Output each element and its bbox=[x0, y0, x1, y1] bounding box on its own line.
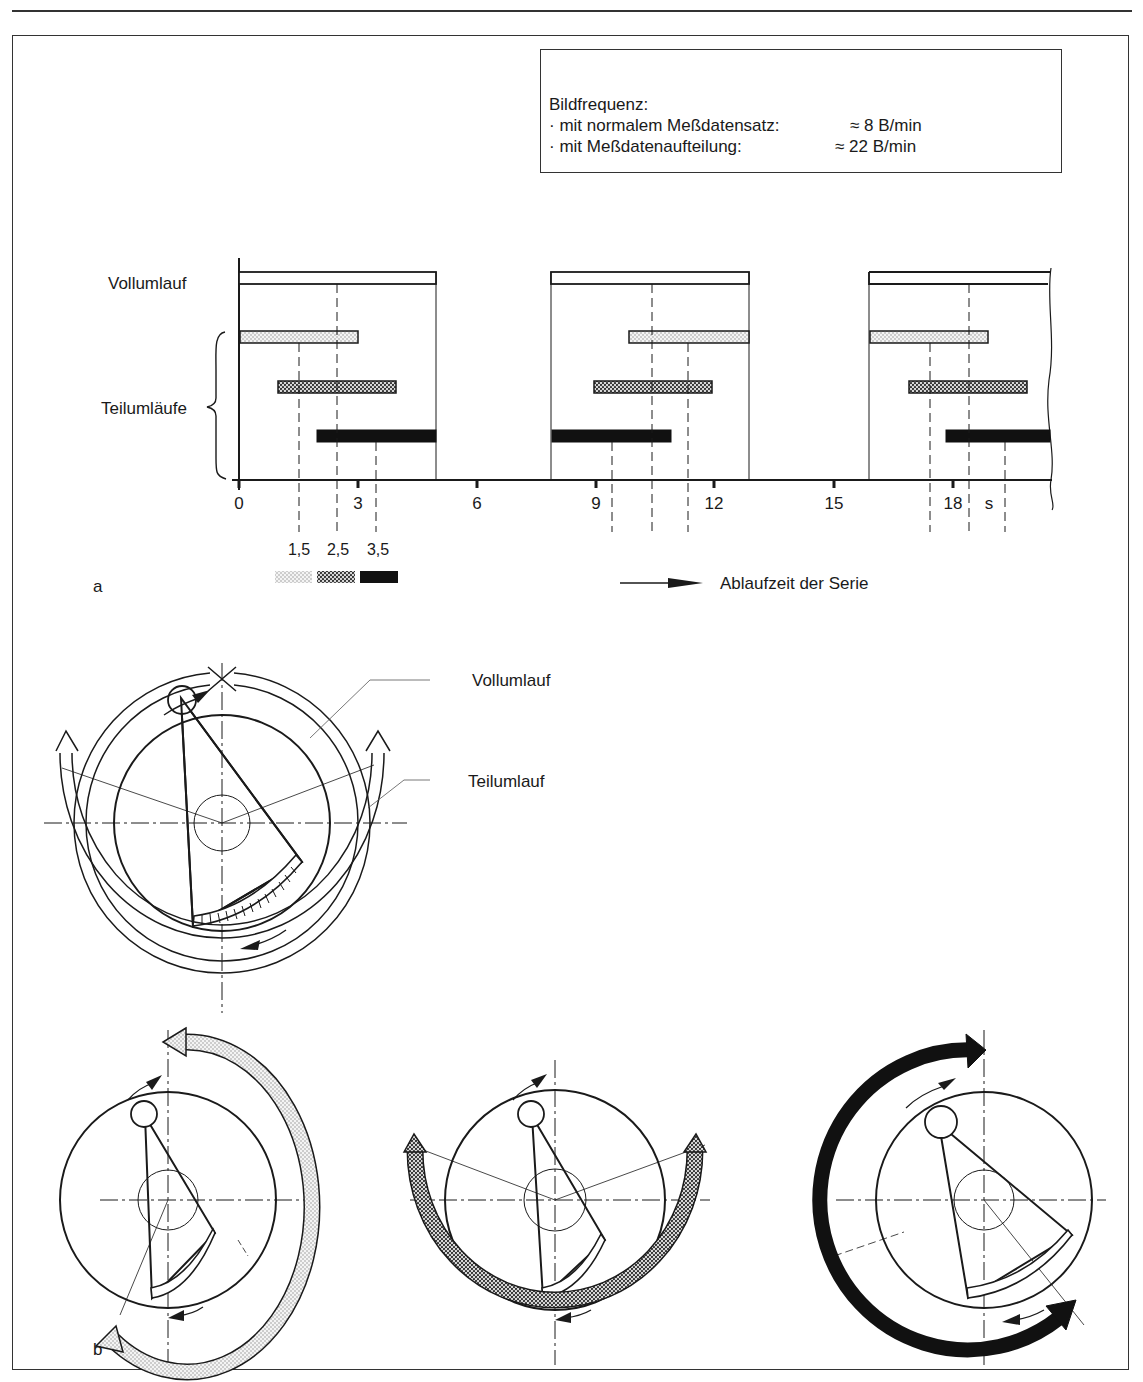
timing-chart bbox=[207, 258, 1053, 532]
x-tick-labels: 0 3 6 9 12 15 18 s bbox=[234, 494, 993, 513]
partial-arc-light bbox=[113, 1042, 312, 1372]
partial-arrowhead-right-icon bbox=[366, 731, 390, 751]
legend-light-dots bbox=[275, 571, 312, 583]
full-rotation-bars bbox=[239, 272, 1050, 284]
tick-label-12: 12 bbox=[705, 494, 724, 513]
partial-arrowhead-left-icon bbox=[56, 731, 78, 751]
partial-diagram-1 bbox=[60, 1028, 316, 1372]
tick-label-3: 3 bbox=[353, 494, 362, 513]
time-arrow-label: Ablaufzeit der Serie bbox=[720, 574, 868, 593]
dashed-markers bbox=[299, 284, 1005, 532]
offset-label-1-5: 1,5 bbox=[288, 541, 310, 558]
rotation-arrow-bottom-icon bbox=[240, 940, 260, 950]
x-ticks bbox=[239, 480, 953, 488]
x-unit-label: s bbox=[985, 494, 994, 513]
break-line bbox=[1048, 268, 1053, 510]
tick-label-9: 9 bbox=[591, 494, 600, 513]
offset-label-3-5: 3,5 bbox=[367, 541, 389, 558]
arc-arrowhead-left-icon bbox=[404, 1134, 426, 1152]
tick-label-18: 18 bbox=[944, 494, 963, 513]
panel-label-a: a bbox=[93, 577, 103, 596]
partial-3-bars bbox=[317, 430, 1050, 442]
arc-arrowhead-top-icon bbox=[966, 1034, 986, 1068]
row-label-full: Vollumlauf bbox=[108, 274, 187, 293]
offset-label-2-5: 2,5 bbox=[327, 541, 349, 558]
partial-group-brace bbox=[207, 332, 226, 479]
panel-label-b: b bbox=[93, 1340, 102, 1359]
full-rotation-arrow-right bbox=[234, 673, 370, 823]
arc-arrowhead-top-icon bbox=[163, 1028, 186, 1056]
offset-labels: 1,5 2,5 3,5 bbox=[288, 541, 389, 558]
fan-limit-right bbox=[222, 765, 374, 823]
tick-label-6: 6 bbox=[472, 494, 481, 513]
arc-arrowhead-right-icon bbox=[684, 1134, 706, 1152]
rotation-diagram bbox=[44, 663, 407, 1013]
figure-canvas: Vollumlauf Teilumläufe 0 3 6 9 12 15 18 … bbox=[0, 0, 1143, 1382]
xray-fan bbox=[181, 698, 302, 926]
detector-array bbox=[193, 855, 302, 926]
pattern-legend bbox=[275, 571, 398, 583]
partial-diagram-3 bbox=[820, 1030, 1106, 1365]
time-arrow bbox=[620, 578, 703, 588]
legend-solid-black bbox=[360, 571, 398, 583]
partial-1-bars bbox=[240, 331, 988, 343]
arrow-right-icon bbox=[668, 578, 703, 588]
callout-partial-rotation: Teilumlauf bbox=[468, 772, 545, 791]
tick-label-0: 0 bbox=[234, 494, 243, 513]
legend-dense-dots bbox=[317, 571, 355, 583]
callout-full-rotation: Vollumlauf bbox=[472, 671, 551, 690]
partial-diagram-2 bbox=[404, 1060, 710, 1365]
tick-label-15: 15 bbox=[825, 494, 844, 513]
full-rotation-arrowhead-left-icon bbox=[208, 667, 222, 691]
full-rotation-arrowhead-right-icon bbox=[222, 667, 236, 691]
row-label-partial: Teilumläufe bbox=[101, 399, 187, 418]
